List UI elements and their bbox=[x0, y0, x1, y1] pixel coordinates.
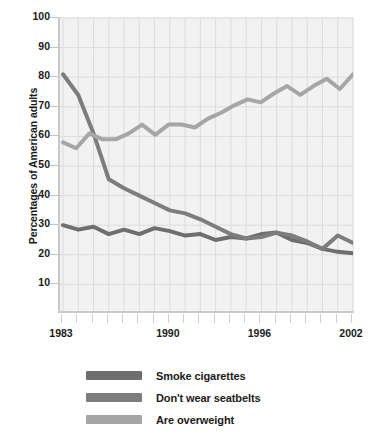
x-axis-tick-mark bbox=[137, 314, 138, 323]
chart-legend: Smoke cigarettesDon't wear seatbeltsAre … bbox=[86, 366, 316, 432]
x-axis-tick-label: 1990 bbox=[140, 327, 196, 339]
plot-canvas bbox=[60, 18, 354, 313]
y-axis-tick-label: 100 bbox=[10, 11, 50, 22]
x-axis-tick-mark bbox=[122, 314, 123, 323]
x-axis-tick-label: 2002 bbox=[323, 327, 372, 339]
y-axis-tick-mark bbox=[50, 106, 58, 107]
legend-item-label: Smoke cigarettes bbox=[156, 370, 246, 382]
series-line bbox=[63, 74, 353, 148]
y-axis-tick-label: 50 bbox=[10, 159, 50, 170]
y-axis-tick-label: 90 bbox=[10, 41, 50, 52]
x-axis-tick-mark bbox=[61, 314, 62, 323]
y-axis-tick-label: 70 bbox=[10, 100, 50, 111]
chart-figure: Percentages of American adults 102030405… bbox=[0, 0, 372, 437]
x-axis-tick-mark bbox=[214, 314, 215, 323]
legend-color-swatch bbox=[86, 415, 142, 424]
y-axis-tick-mark bbox=[50, 17, 58, 18]
y-axis-tick-mark bbox=[50, 195, 58, 196]
legend-item-label: Don't wear seatbelts bbox=[156, 392, 261, 404]
x-axis-tick-mark bbox=[320, 314, 321, 323]
y-axis-tick-label: 40 bbox=[10, 189, 50, 200]
legend-item[interactable]: Are overweight bbox=[86, 410, 316, 429]
data-series bbox=[63, 74, 353, 253]
y-axis-tick-mark bbox=[50, 224, 58, 225]
x-axis-tick-mark bbox=[290, 314, 291, 323]
y-axis-tick-mark bbox=[50, 76, 58, 77]
x-axis-tick-mark bbox=[275, 314, 276, 323]
x-axis-tick-mark bbox=[198, 314, 199, 323]
y-axis-tick-mark bbox=[50, 254, 58, 255]
x-axis-tick-mark bbox=[336, 314, 337, 323]
plot-area bbox=[58, 17, 354, 313]
y-axis-tick-label: 20 bbox=[10, 248, 50, 259]
legend-item-label: Are overweight bbox=[156, 414, 234, 426]
y-axis-tick-mark bbox=[50, 283, 58, 284]
x-axis-tick-mark bbox=[153, 314, 154, 323]
y-axis-tick-mark bbox=[50, 47, 58, 48]
legend-color-swatch bbox=[86, 371, 142, 380]
x-axis-tick-mark bbox=[168, 314, 169, 323]
x-axis-tick-label: 1996 bbox=[231, 327, 287, 339]
legend-color-swatch bbox=[86, 393, 142, 402]
x-axis-tick-mark bbox=[351, 314, 352, 323]
legend-item[interactable]: Smoke cigarettes bbox=[86, 366, 316, 385]
y-axis-tick-label: 10 bbox=[10, 277, 50, 288]
x-axis-tick-label: 1983 bbox=[33, 327, 89, 339]
x-axis-tick-mark bbox=[305, 314, 306, 323]
y-axis-tick-label: 80 bbox=[10, 70, 50, 81]
y-axis-tick-label: 60 bbox=[10, 129, 50, 140]
legend-item[interactable]: Don't wear seatbelts bbox=[86, 388, 316, 407]
x-axis-tick-mark bbox=[259, 314, 260, 323]
x-axis-tick-mark bbox=[229, 314, 230, 323]
y-axis-tick-label: 30 bbox=[10, 218, 50, 229]
x-axis-tick-mark bbox=[107, 314, 108, 323]
y-axis-tick-mark bbox=[50, 165, 58, 166]
y-axis-tick-mark bbox=[50, 135, 58, 136]
series-line bbox=[63, 225, 353, 253]
x-axis-tick-mark bbox=[76, 314, 77, 323]
x-axis-tick-mark bbox=[92, 314, 93, 323]
x-axis-tick-mark bbox=[244, 314, 245, 323]
series-line bbox=[63, 74, 353, 249]
x-axis-tick-mark bbox=[183, 314, 184, 323]
